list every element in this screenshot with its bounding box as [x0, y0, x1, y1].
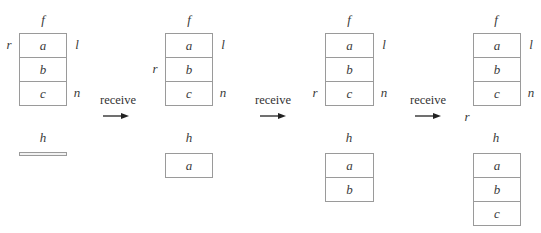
h-label: h: [181, 131, 197, 145]
h-cell: a: [166, 154, 212, 178]
r-pointer-label: r: [150, 62, 160, 76]
h-label: h: [488, 131, 504, 145]
f-queue-box: a b c: [165, 33, 213, 106]
f-label: f: [181, 13, 197, 27]
right-arrow-icon: [260, 111, 286, 121]
l-pointer-label: l: [218, 38, 228, 52]
f-queue-box: a b c: [473, 33, 521, 106]
h-cell: c: [474, 202, 520, 226]
n-pointer-label: n: [526, 86, 536, 100]
f-queue-box: a b c: [19, 33, 67, 106]
f-cell: b: [326, 58, 373, 82]
h-label: h: [341, 131, 357, 145]
f-cell: a: [20, 34, 66, 58]
right-arrow-icon: [103, 111, 129, 121]
r-pointer-label: r: [310, 86, 320, 100]
receive-label: receive: [410, 93, 446, 108]
r-pointer-label: r: [462, 110, 472, 124]
h-cell: a: [474, 154, 520, 178]
f-label: f: [35, 13, 51, 27]
receive-label: receive: [100, 93, 136, 108]
h-queue-box: a b c: [473, 153, 521, 226]
n-pointer-label: n: [72, 86, 82, 100]
l-pointer-label: l: [72, 38, 82, 52]
receive-label: receive: [255, 93, 291, 108]
l-pointer-label: l: [526, 38, 536, 52]
f-cell: a: [474, 34, 520, 58]
f-cell: c: [166, 82, 212, 106]
f-cell: b: [20, 58, 66, 82]
f-cell: a: [166, 34, 212, 58]
r-pointer-label: r: [4, 38, 14, 52]
h-cell: a: [326, 154, 373, 178]
h-label: h: [35, 131, 51, 145]
n-pointer-label: n: [218, 86, 228, 100]
f-queue-box: a b c: [325, 33, 374, 106]
h-cell: b: [474, 178, 520, 202]
f-label: f: [488, 13, 504, 27]
f-cell: c: [20, 82, 66, 106]
h-queue-box: a: [165, 153, 213, 178]
h-queue-box: a b: [325, 153, 374, 202]
f-cell: b: [166, 58, 212, 82]
right-arrow-icon: [415, 111, 441, 121]
f-cell: a: [326, 34, 373, 58]
n-pointer-label: n: [379, 86, 389, 100]
l-pointer-label: l: [379, 38, 389, 52]
h-empty-queue: [19, 152, 67, 156]
f-cell: b: [474, 58, 520, 82]
f-cell: c: [474, 82, 520, 106]
f-label: f: [341, 13, 357, 27]
h-cell: b: [326, 178, 373, 202]
f-cell: c: [326, 82, 373, 106]
